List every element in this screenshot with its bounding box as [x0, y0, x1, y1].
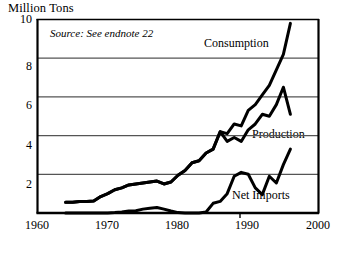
chart-figure: Million Tons Source: See endnote 22 Cons…: [0, 0, 344, 255]
gridlines: [38, 58, 319, 174]
axis-frame: [37, 19, 320, 218]
series-line-net-imports: [66, 149, 291, 213]
series-paths: [66, 23, 291, 213]
plot-area: [0, 0, 344, 255]
